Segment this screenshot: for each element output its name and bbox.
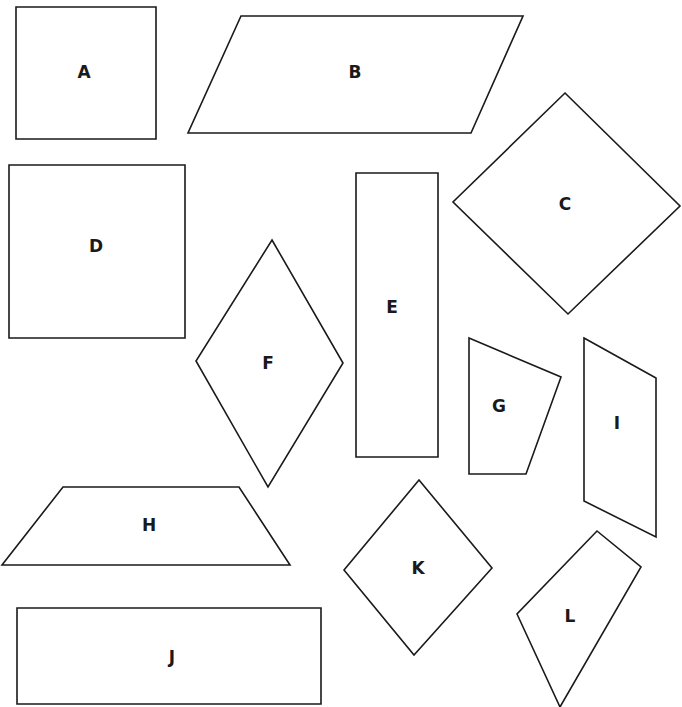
shape-c-label: C [559, 194, 571, 214]
shape-l: L [517, 531, 641, 707]
shape-b: B [188, 16, 523, 133]
shapes-worksheet: ABCDEFGHIJKL [0, 0, 682, 707]
shape-c: C [453, 93, 680, 314]
shape-i: I [584, 338, 656, 537]
shape-l-label: L [565, 606, 576, 626]
shape-i-outline [584, 338, 656, 537]
shape-k: K [344, 480, 492, 655]
shape-f-label: F [262, 353, 274, 373]
shape-f: F [196, 240, 343, 487]
shape-b-label: B [349, 62, 362, 82]
shape-g-label: G [492, 396, 506, 416]
shape-g: G [469, 338, 561, 474]
shape-a: A [16, 7, 156, 139]
shape-h: H [2, 487, 290, 565]
shape-j-label: J [168, 647, 175, 667]
shape-e: E [356, 173, 438, 457]
shape-g-outline [469, 338, 561, 474]
shape-d: D [9, 165, 185, 338]
shapes-diagram: ABCDEFGHIJKL [0, 0, 682, 707]
shape-h-label: H [142, 515, 156, 535]
shape-a-label: A [77, 62, 91, 82]
shape-e-label: E [386, 297, 398, 317]
shape-i-label: I [614, 413, 620, 433]
shape-j: J [17, 608, 321, 704]
shape-k-label: K [411, 558, 425, 578]
shape-l-outline [517, 531, 641, 707]
shape-d-label: D [89, 236, 103, 256]
